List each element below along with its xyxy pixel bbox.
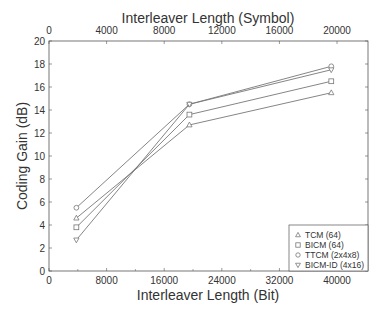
data-point [74, 238, 79, 243]
data-point [74, 215, 79, 220]
series-tcm-64 [74, 90, 334, 220]
y-tick-label: 6 [39, 197, 45, 208]
y-tick-label: 4 [39, 220, 45, 231]
data-point [187, 112, 192, 117]
top-tick-label: 8000 [153, 25, 176, 36]
legend-marker [296, 253, 300, 257]
legend-marker [296, 243, 300, 247]
legend-item: TTCM (2x4x8) [296, 250, 360, 260]
x-tick-label: 0 [46, 275, 52, 286]
legend: TCM (64)BICM (64)TTCM (2x4x8)BICM-ID (4x… [289, 225, 368, 271]
y-tick-label: 10 [34, 151, 46, 162]
y-tick-label: 2 [39, 243, 45, 254]
legend-label: BICM (64) [305, 240, 344, 250]
x-tick-label: 8000 [95, 275, 118, 286]
series-line [76, 81, 331, 227]
top-tick-label: 12000 [208, 25, 236, 36]
y-tick-label: 0 [39, 266, 45, 277]
series-line [76, 70, 331, 240]
series-bicm-id-4x16 [74, 68, 334, 243]
top-tick-label: 0 [46, 25, 52, 36]
y-tick-label: 8 [39, 174, 45, 185]
x-axis-title: Interleaver Length (Bit) [137, 287, 279, 303]
top-tick-label: 4000 [95, 25, 118, 36]
top-axis-title: Interleaver Length (Symbol) [122, 10, 295, 26]
series-group [74, 64, 334, 243]
data-point [74, 205, 79, 210]
data-point [74, 225, 79, 230]
y-axis-title: Coding Gain (dB) [14, 102, 30, 210]
y-tick-label: 18 [34, 59, 46, 70]
top-tick-label: 20000 [323, 25, 351, 36]
legend-label: TTCM (2x4x8) [305, 250, 359, 260]
top-tick-label: 16000 [266, 25, 294, 36]
y-tick-label: 12 [34, 128, 46, 139]
chart: 0800016000240003200040000 04000800012000… [0, 0, 385, 315]
y-tick-label: 14 [34, 105, 46, 116]
legend-item: BICM-ID (4x16) [296, 260, 365, 270]
legend-label: TCM (64) [305, 230, 341, 240]
y-tick-label: 16 [34, 82, 46, 93]
legend-label: BICM-ID (4x16) [305, 260, 364, 270]
data-point [329, 79, 334, 84]
x-tick-label: 16000 [150, 275, 178, 286]
y-tick-label: 20 [34, 36, 46, 47]
x-tick-label: 32000 [266, 275, 294, 286]
x-tick-label: 24000 [208, 275, 236, 286]
x-tick-label: 40000 [323, 275, 351, 286]
data-point [329, 90, 334, 95]
